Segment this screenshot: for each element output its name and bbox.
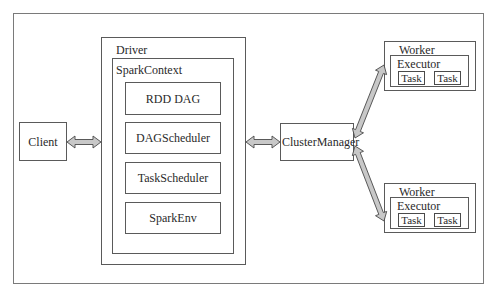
task-scheduler-label: TaskScheduler <box>126 171 220 185</box>
cluster-manager-box: ClusterManager <box>280 123 354 161</box>
client-label: Client <box>20 135 66 149</box>
client-box: Client <box>19 122 67 161</box>
rdd-dag-box: RDD DAG <box>125 82 221 115</box>
task-scheduler-box: TaskScheduler <box>125 162 221 194</box>
task-box: Task <box>434 213 461 227</box>
dag-scheduler-box: DAGScheduler <box>125 122 221 154</box>
executor-label-2: Executor <box>397 199 440 213</box>
task-box: Task <box>398 71 425 85</box>
cluster-manager-label: ClusterManager <box>282 135 353 149</box>
task-box: Task <box>398 213 425 227</box>
task-box: Task <box>434 71 461 85</box>
dag-scheduler-label: DAGScheduler <box>126 131 220 145</box>
spark-env-label: SparkEnv <box>126 211 220 225</box>
rdd-dag-label: RDD DAG <box>126 92 220 106</box>
driver-label: Driver <box>116 43 147 57</box>
spark-env-box: SparkEnv <box>125 202 221 234</box>
spark-context-label: SparkContext <box>116 63 182 77</box>
executor-label-1: Executor <box>397 57 440 71</box>
